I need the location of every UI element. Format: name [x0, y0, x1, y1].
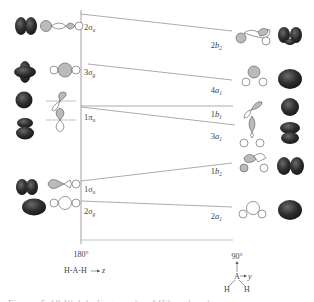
svg-text:A: A	[234, 272, 240, 281]
svg-text:H: H	[224, 285, 230, 294]
svg-text:H: H	[244, 285, 250, 294]
surface-2su-icon	[15, 17, 37, 35]
svg-text:3a1: 3a1	[211, 131, 223, 142]
svg-text:3σg: 3σg	[84, 67, 95, 78]
line-1su-1b2	[81, 163, 232, 181]
line-2su-2b2	[81, 14, 232, 31]
sketch-3sg-icon	[50, 63, 80, 77]
sketch-4a1-icon	[242, 66, 267, 86]
sketch-3a1-icon	[240, 116, 264, 147]
sketch-1su-icon	[48, 180, 80, 189]
linear-geometry-label: 180° H-A-H z	[64, 250, 106, 275]
sketch-2a1-icon	[239, 202, 266, 219]
bent-geometry-label: 90° A H H y	[224, 252, 252, 294]
svg-text:2a1: 2a1	[211, 211, 223, 222]
svg-text:2σu: 2σu	[84, 22, 95, 33]
svg-text:1b1: 1b1	[211, 109, 223, 120]
svg-text:1σu: 1σu	[84, 184, 95, 195]
surface-2sg-icon	[22, 199, 46, 216]
svg-text:H-A-H: H-A-H	[64, 266, 87, 275]
sketch-1pu-b-icon	[46, 108, 76, 132]
svg-text:2σg: 2σg	[84, 206, 95, 217]
svg-text:90°: 90°	[231, 252, 242, 261]
sketch-1pu-a-icon	[46, 92, 76, 111]
surface-1su-icon	[16, 179, 38, 195]
walsh-diagram: 2σu 3σg 1πu 1σu 2σg 2b2 4a1 1b1 3a1 1b2 …	[0, 0, 314, 302]
line-2sg-2a1	[81, 201, 232, 207]
right-labels: 2b2 4a1 1b1 3a1 1b2 2a1	[211, 40, 223, 222]
sketch-2su-icon	[41, 21, 84, 32]
surface-2a1-icon	[278, 200, 302, 220]
right-orbital-surfaces	[277, 27, 304, 220]
svg-text:1b2: 1b2	[211, 166, 223, 177]
line-3sg-4a1	[88, 64, 232, 80]
surface-4a1-icon	[278, 69, 302, 89]
surface-1pu-a-icon	[16, 92, 33, 109]
surface-3sg-icon	[14, 61, 36, 83]
right-orbital-sketches	[236, 28, 270, 218]
sketch-2b2-icon	[236, 28, 270, 45]
svg-text:z: z	[101, 266, 106, 275]
sketch-1b1-icon	[244, 102, 262, 118]
surface-1pu-b-icon	[16, 118, 34, 140]
sketch-1b2-icon	[240, 153, 268, 172]
figure-caption: Figure 5-18 Walsh diagram for AH2 molecu…	[8, 296, 308, 302]
surface-3a1-icon	[280, 122, 300, 144]
surface-1b2-icon	[277, 157, 304, 175]
surface-2b2-icon	[278, 27, 302, 45]
surface-1b1-icon	[281, 98, 299, 116]
left-labels: 2σu 3σg 1πu 1σu 2σg	[84, 22, 96, 217]
sketch-2sg-icon	[50, 197, 80, 210]
svg-text:1πu: 1πu	[84, 112, 96, 123]
svg-text:y: y	[247, 272, 252, 281]
svg-text:180°: 180°	[73, 250, 88, 259]
svg-text:2b2: 2b2	[211, 40, 223, 51]
left-orbital-surfaces	[14, 17, 46, 216]
left-orbital-sketches	[41, 21, 84, 210]
svg-text:4a1: 4a1	[211, 85, 223, 96]
